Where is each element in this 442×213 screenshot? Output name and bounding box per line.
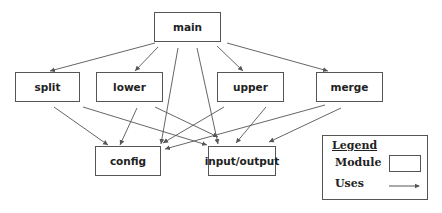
module-merge: merge [316,72,383,102]
edge-main-to-merge [227,43,328,71]
module-main: main [154,12,221,42]
module-label: merge [331,81,369,93]
edge-main-to-lower [135,47,158,71]
module-label: main [173,21,202,33]
edge-main-to-upper [217,46,243,71]
edge-lower-to-config [120,108,137,145]
edge-upper-to-config [163,107,224,143]
module-label: upper [233,81,268,93]
edge-main-to-config [161,48,178,144]
module-label: split [35,81,61,93]
legend-title: Legend [332,139,377,152]
module-io: input/output [208,146,276,176]
module-upper: upper [217,72,284,102]
module-lower: lower [96,72,163,102]
module-label: lower [113,81,146,93]
edge-main-to-io [197,48,218,144]
legend-module-swatch [389,155,421,172]
legend-uses-arrow-icon [389,183,421,189]
module-config: config [95,146,161,176]
legend-uses-label: Uses [335,177,364,190]
module-split: split [15,72,80,102]
legend-module-label: Module [335,156,381,169]
edge-split-to-config [54,107,108,145]
module-label: config [110,155,146,167]
edge-split-to-io [83,107,207,145]
legend: Legend Module Uses [322,135,428,200]
module-label: input/output [205,155,280,167]
